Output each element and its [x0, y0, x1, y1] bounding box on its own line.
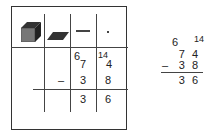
- result-line: [33, 89, 128, 90]
- minus-sign: –: [58, 75, 64, 86]
- result-ones: 6: [105, 94, 111, 105]
- side-minus: –: [162, 60, 168, 71]
- side-regroup-tens: 6: [172, 37, 178, 48]
- subtract-ones: 8: [105, 75, 111, 86]
- subtract-tens: 3: [80, 75, 86, 86]
- side-line2: 3 8: [170, 60, 200, 71]
- ones-rod-icon: [76, 30, 90, 32]
- column-line: [96, 14, 97, 112]
- side-result-line: [161, 72, 203, 73]
- result-tens: 3: [80, 94, 86, 105]
- side-result: 3 6: [170, 75, 200, 86]
- unit-dot-icon: [107, 31, 109, 33]
- column-line: [70, 14, 71, 112]
- tens-flat-icon: [47, 26, 69, 34]
- hundreds-cube-icon: [21, 22, 41, 42]
- side-regroup-ones: 14: [194, 35, 204, 44]
- ones-original: 4: [106, 59, 112, 70]
- tens-original: 7: [80, 59, 86, 70]
- column-line: [44, 14, 45, 112]
